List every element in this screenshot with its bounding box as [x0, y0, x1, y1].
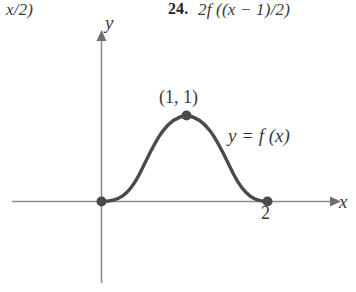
point-maximum: [182, 111, 192, 121]
graph-canvas: [0, 0, 356, 292]
maximum-point-label: (1, 1): [159, 88, 198, 106]
point-origin: [97, 197, 107, 207]
page-root: x/2) 24. 2f ((x − 1)/2) y x (1, 1) y = f…: [0, 0, 356, 292]
x-intercept-tick-label: 2: [261, 204, 270, 222]
y-axis-label: y: [105, 13, 113, 32]
x-axis-label: x: [339, 192, 347, 211]
function-curve-label: y = f (x): [228, 126, 290, 145]
graph-figure: [0, 0, 356, 292]
